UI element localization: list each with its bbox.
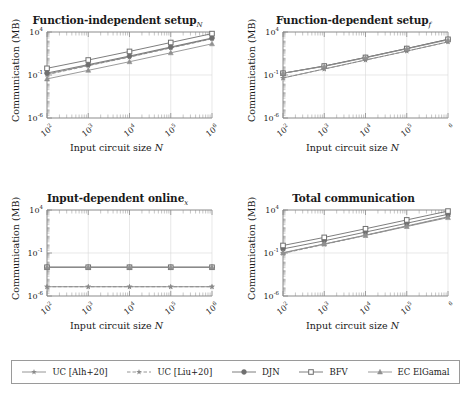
data-point-marker (45, 66, 50, 71)
legend-entry: EC ElGamal (367, 367, 450, 377)
y-axis-label: Communication (MB) (246, 19, 257, 122)
data-point-marker (363, 226, 368, 231)
legend-entry: UC [Liu+20] (126, 367, 212, 377)
x-axis-label: Input circuit size N (14, 142, 219, 153)
data-point-marker (86, 62, 91, 67)
legend-label: BFV (329, 367, 347, 377)
y-axis-label: Communication (MB) (10, 19, 21, 122)
data-point-marker (309, 370, 314, 375)
data-point-marker (86, 58, 91, 63)
x-axis-label: Input circuit size N (250, 142, 455, 153)
data-point-marker (168, 40, 173, 45)
data-point-marker (137, 369, 143, 374)
legend-label: DJN (262, 367, 280, 377)
legend-label: UC [Liu+20] (157, 367, 212, 377)
legend-marker-triangle-icon (367, 367, 393, 377)
legend-entry: DJN (231, 367, 280, 377)
legend-marker-circle-icon (231, 367, 257, 377)
data-point-marker (168, 45, 173, 50)
legend-label: EC ElGamal (398, 367, 450, 377)
panel-function-dependent-setup: Function-dependent setupf 10410-110-6102… (236, 0, 471, 178)
y-axis-label: Communication (MB) (10, 197, 21, 300)
legend-marker-square-icon (298, 367, 324, 377)
data-point-marker (45, 71, 50, 76)
data-point-marker (404, 218, 409, 223)
data-point-marker (322, 235, 327, 240)
y-axis-label: Communication (MB) (246, 197, 257, 300)
data-point-marker (242, 370, 247, 375)
legend-label: UC [Alh+20] (52, 367, 107, 377)
data-point-marker (446, 209, 451, 214)
chart-legend: UC [Alh+20]UC [Liu+20]DJNBFVEC ElGamal (11, 360, 460, 384)
legend-marker-star-icon (126, 367, 152, 377)
panel-input-dependent-online: Input-dependent onlinex 10410-110-610210… (0, 178, 235, 356)
panel-total-communication: Total communication 10410-110-6102103104… (236, 178, 471, 356)
grid-lines (47, 210, 212, 296)
figure-container: Function-independent setupN 10410-110-61… (0, 0, 471, 394)
grid-lines (47, 32, 212, 118)
legend-entry: UC [Alh+20] (21, 367, 107, 377)
data-point-marker (210, 41, 215, 46)
panel-function-independent-setup: Function-independent setupN 10410-110-61… (0, 0, 235, 178)
data-point-marker (32, 369, 38, 374)
data-point-marker (127, 49, 132, 54)
x-axis-label: Input circuit size N (14, 320, 219, 331)
data-point-marker (127, 54, 132, 59)
x-axis-label: Input circuit size N (250, 320, 455, 331)
data-point-marker (210, 31, 215, 36)
data-point-marker (281, 243, 286, 248)
legend-marker-star-icon (21, 367, 47, 377)
panel-grid: Function-independent setupN 10410-110-61… (0, 0, 471, 356)
legend-entry: BFV (298, 367, 347, 377)
